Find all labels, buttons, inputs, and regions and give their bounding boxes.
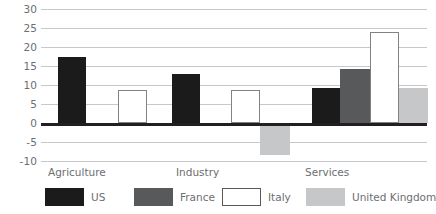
legend-swatch-italy-icon xyxy=(222,188,261,206)
chart-legend: US France Italy United Kingdom xyxy=(0,186,431,212)
bar-industry-united-kingdom xyxy=(260,125,290,155)
gridline-neg5 xyxy=(41,142,427,143)
bar-services-france xyxy=(340,69,370,123)
legend-label-italy: Italy xyxy=(268,192,291,203)
gridline-25 xyxy=(41,28,427,29)
bar-agriculture-italy xyxy=(118,90,147,123)
legend-item-italy: Italy xyxy=(222,186,291,208)
bar-agriculture-us xyxy=(58,57,86,124)
category-label-services: Services xyxy=(305,167,349,178)
bar-industry-us xyxy=(172,74,200,123)
legend-item-united-kingdom: United Kingdom xyxy=(306,186,436,208)
y-tick-label-neg10: -10 xyxy=(3,156,37,167)
gridline-30 xyxy=(41,9,427,10)
legend-swatch-us-icon xyxy=(45,188,84,206)
y-tick-label-25: 25 xyxy=(3,23,37,34)
category-label-industry: Industry xyxy=(176,167,219,178)
legend-item-us: US xyxy=(45,186,105,208)
legend-label-france: France xyxy=(180,192,215,203)
category-label-agriculture: Agriculture xyxy=(48,167,106,178)
bar-services-us xyxy=(312,88,340,123)
zero-axis-line xyxy=(41,123,427,126)
y-tick-label-30: 30 xyxy=(3,4,37,15)
gridline-neg10 xyxy=(41,161,427,162)
bar-services-united-kingdom xyxy=(399,88,428,123)
bar-industry-italy xyxy=(231,90,260,123)
y-tick-label-5: 5 xyxy=(3,99,37,110)
plot-area xyxy=(41,9,427,161)
legend-swatch-united-kingdom-icon xyxy=(306,188,345,206)
legend-swatch-france-icon xyxy=(134,188,173,206)
y-tick-label-neg5: -5 xyxy=(3,137,37,148)
legend-label-united-kingdom: United Kingdom xyxy=(352,192,436,203)
legend-item-france: France xyxy=(134,186,215,208)
y-tick-label-10: 10 xyxy=(3,80,37,91)
legend-label-us: US xyxy=(91,192,105,203)
y-tick-label-0: 0 xyxy=(3,118,37,129)
y-tick-label-20: 20 xyxy=(3,42,37,53)
bar-services-italy xyxy=(370,32,399,123)
y-tick-label-15: 15 xyxy=(3,61,37,72)
